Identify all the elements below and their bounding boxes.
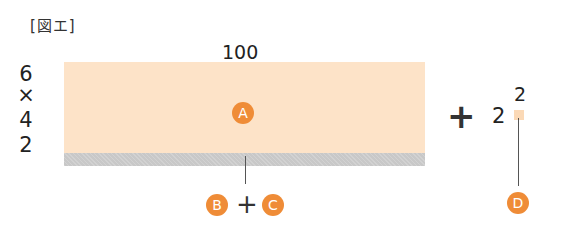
plus-sign-small: + — [236, 193, 258, 215]
figure-label: [図エ] — [30, 14, 76, 35]
factor-four: 4 — [14, 110, 38, 131]
badge-b: B — [206, 194, 228, 216]
width-label: 100 — [222, 41, 258, 63]
plus-sign-large: + — [447, 101, 476, 131]
power-exponent: 2 — [514, 83, 526, 105]
small-square — [514, 110, 524, 120]
badge-a: A — [232, 102, 254, 124]
badge-d: D — [507, 192, 529, 214]
square-pointer-line — [518, 118, 519, 186]
times-sign: × — [14, 85, 38, 106]
power-base: 2 — [492, 104, 505, 128]
badge-c: C — [262, 194, 284, 216]
factor-six: 6 — [14, 64, 38, 85]
strip-pointer-line — [245, 156, 246, 184]
factor-two: 2 — [14, 135, 38, 156]
